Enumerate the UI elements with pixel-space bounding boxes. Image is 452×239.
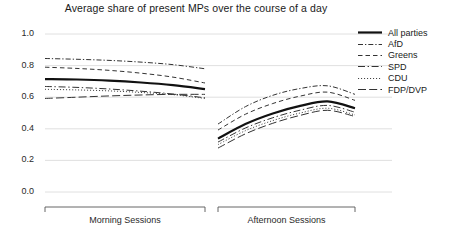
legend-item-label: CDU — [383, 73, 408, 83]
legend-line-swatch — [357, 27, 383, 38]
legend-line-swatch — [357, 50, 383, 61]
chart-root: Average share of present MPs over the co… — [0, 0, 452, 239]
y-axis-tick-label: 1.0 — [8, 28, 34, 38]
legend-item-label: All parties — [383, 28, 428, 38]
legend-line-swatch — [357, 84, 383, 95]
legend-item-label: FDP/DVP — [383, 85, 427, 95]
y-axis-tick-label: 0.2 — [8, 154, 34, 164]
chart-legend: All partiesAfDGreensSPDCDUFDP/DVP — [357, 27, 452, 95]
series-line-spd — [45, 86, 205, 97]
y-axis-tick-label: 0.8 — [8, 60, 34, 70]
y-axis-tick-label: 0.4 — [8, 123, 34, 133]
series-line-afd — [45, 58, 205, 68]
legend-item-cdu[interactable]: CDU — [357, 73, 452, 84]
legend-line-swatch — [357, 73, 383, 84]
x-axis-group-label-afternoon: Afternoon Sessions — [218, 215, 355, 225]
y-axis-tick-label: 0.0 — [8, 186, 34, 196]
legend-item-afd[interactable]: AfD — [357, 38, 452, 49]
legend-item-spd[interactable]: SPD — [357, 61, 452, 72]
legend-item-all-parties[interactable]: All parties — [357, 27, 452, 38]
legend-line-swatch — [357, 39, 383, 50]
legend-item-fdp-dvp[interactable]: FDP/DVP — [357, 84, 452, 95]
legend-item-label: Greens — [383, 50, 418, 60]
series-line-all-parties — [45, 79, 205, 89]
legend-item-label: SPD — [383, 62, 407, 72]
x-axis-group-label-morning: Morning Sessions — [45, 215, 205, 225]
series-line-all-parties — [218, 101, 355, 138]
legend-item-greens[interactable]: Greens — [357, 50, 452, 61]
legend-line-swatch — [357, 61, 383, 72]
y-axis-tick-label: 0.6 — [8, 91, 34, 101]
legend-item-label: AfD — [383, 39, 403, 49]
